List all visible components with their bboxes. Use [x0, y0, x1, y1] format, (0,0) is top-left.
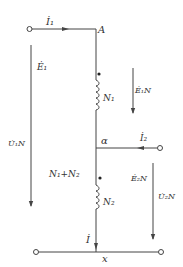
n1-coil: [96, 80, 99, 110]
n1-label: N₁: [102, 93, 114, 103]
node-x-label: x: [102, 253, 108, 264]
i-arrow-icon: [94, 243, 98, 250]
i1-arrow-icon: [62, 27, 69, 31]
top-left-terminal: [27, 27, 32, 32]
n2-coil: [96, 185, 99, 209]
n1-plus-n2-label: N₁+N₂: [48, 169, 80, 179]
e2n-label: Ė₂N: [130, 174, 148, 183]
i-label: İ: [85, 234, 91, 245]
node-alpha-label: α: [101, 135, 108, 146]
circuit-svg: İ₁ A Ė₁ N₁ Ė₁N U̇₁N α İ₂ N₁+N₂ Ė₂N N₂ U̇…: [0, 0, 183, 267]
n2-polarity-dot: [98, 176, 101, 179]
node-a-label: A: [97, 24, 105, 35]
i2-arrow-icon: [137, 146, 144, 150]
n2-label: N₂: [102, 197, 115, 207]
n1-polarity-dot: [97, 72, 100, 75]
tap-terminal: [158, 146, 163, 151]
bottom-right-terminal: [159, 250, 164, 255]
bottom-left-terminal: [34, 250, 39, 255]
u1n-label: U̇₁N: [8, 139, 26, 148]
i1-label: İ₁: [45, 16, 54, 27]
autotransformer-diagram: İ₁ A Ė₁ N₁ Ė₁N U̇₁N α İ₂ N₁+N₂ Ė₂N N₂ U̇…: [0, 0, 183, 267]
e1n-label: Ė₁N: [134, 86, 152, 95]
u2n-label: U̇₂N: [158, 192, 176, 201]
e1-label: Ė₁: [36, 61, 47, 72]
i2-label: İ₂: [139, 132, 148, 143]
